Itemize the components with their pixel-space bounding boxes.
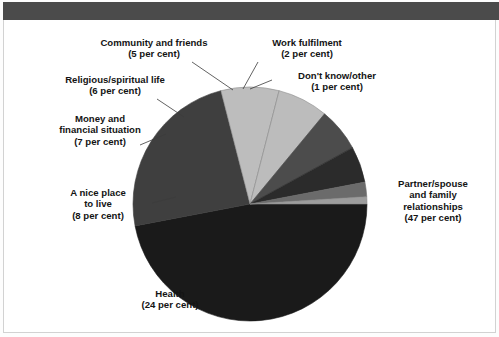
label-line: (6 per cent) xyxy=(44,85,186,96)
label-line: and family xyxy=(372,189,494,200)
label-line: financial situation xyxy=(32,124,168,135)
leader-line-work xyxy=(243,62,258,89)
label-line: Partner/spouse xyxy=(372,178,494,189)
label-line: (24 per cent) xyxy=(112,299,228,310)
label-community-and-friends: Community and friends (5 per cent) xyxy=(86,37,222,60)
screenshot-root: Community and friends (5 per cent) Work … xyxy=(0,0,499,337)
pie-slices xyxy=(133,87,367,321)
label-line: Don't know/other xyxy=(274,70,400,81)
label-health: Health (24 per cent) xyxy=(112,288,228,311)
label-religious-spiritual-life: Religious/spiritual life (6 per cent) xyxy=(44,74,186,97)
label-line: (2 per cent) xyxy=(248,48,366,59)
label-line: relationships xyxy=(372,201,494,212)
label-line: (7 per cent) xyxy=(32,136,168,147)
label-money-financial-situation: Money and financial situation (7 per cen… xyxy=(32,113,168,147)
label-line: (47 per cent) xyxy=(372,212,494,223)
label-line: Work fulfilment xyxy=(248,37,366,48)
leader-line-community xyxy=(192,62,233,90)
label-partner-spouse-family: Partner/spouse and family relationships … xyxy=(372,178,494,224)
label-work-fulfilment: Work fulfilment (2 per cent) xyxy=(248,37,366,60)
label-line: Health xyxy=(112,288,228,299)
label-line: Religious/spiritual life xyxy=(44,74,186,85)
label-line: Money and xyxy=(32,113,168,124)
label-line: (5 per cent) xyxy=(86,48,222,59)
label-a-nice-place-to-live: A nice place to live (8 per cent) xyxy=(36,187,160,221)
label-dont-know-other: Don't know/other (1 per cent) xyxy=(274,70,400,93)
label-line: (8 per cent) xyxy=(36,210,160,221)
label-line: to live xyxy=(36,198,160,209)
label-line: A nice place xyxy=(36,187,160,198)
label-line: Community and friends xyxy=(86,37,222,48)
pie-chart-figure: Community and friends (5 per cent) Work … xyxy=(0,0,499,337)
label-line: (1 per cent) xyxy=(274,81,400,92)
